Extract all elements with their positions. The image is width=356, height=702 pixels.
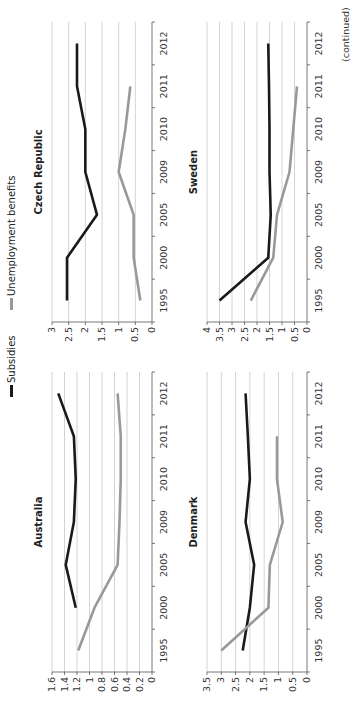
- chart-svg: Sweden00.511.522.533.5419952000200520092…: [185, 2, 335, 352]
- x-tick-label: 2009: [158, 510, 169, 534]
- chart-svg: Czech Republic00.511.522.531995200020052…: [30, 2, 180, 352]
- continued-note: (continued): [340, 7, 351, 62]
- legend-label-unemployment: Unemployment benefits: [6, 176, 17, 296]
- x-tick-label: 2012: [313, 31, 324, 55]
- unemployment-swatch-icon: [10, 298, 13, 310]
- y-tick-label: 2.5: [63, 327, 74, 342]
- y-tick-label: 3.5: [201, 677, 212, 692]
- y-tick-label: 1: [84, 677, 95, 683]
- legend: Subsidies Unemployment benefits: [4, 0, 24, 702]
- y-tick-label: 0: [301, 677, 312, 683]
- y-tick-label: 0: [301, 327, 312, 333]
- legend-label-subsidies: Subsidies: [6, 335, 17, 383]
- x-tick-label: 2000: [313, 596, 324, 620]
- y-tick-label: 0: [146, 677, 157, 683]
- y-tick-label: 3: [46, 327, 57, 333]
- x-tick-label: 2005: [313, 553, 324, 577]
- x-tick-label: 2009: [313, 160, 324, 184]
- x-tick-label: 2010: [313, 467, 324, 491]
- y-tick-label: 1: [276, 327, 287, 333]
- y-tick-label: 2: [251, 327, 262, 333]
- y-tick-label: 1: [272, 677, 283, 683]
- y-tick-label: 1.6: [46, 677, 57, 692]
- y-tick-label: 1.2: [71, 677, 82, 692]
- unemployment-line: [119, 86, 141, 300]
- y-tick-label: 3: [226, 327, 237, 333]
- x-tick-label: 2009: [313, 510, 324, 534]
- y-tick-label: 0.6: [109, 677, 120, 692]
- y-tick-label: 0.8: [96, 677, 107, 692]
- chart-svg: Denmark00.511.522.533.519952000200520092…: [185, 352, 335, 702]
- x-tick-label: 2010: [313, 117, 324, 141]
- x-tick-label: 2005: [313, 203, 324, 227]
- chart-title: Sweden: [188, 150, 199, 194]
- x-tick-label: 2000: [313, 246, 324, 270]
- x-tick-label: 2012: [313, 381, 324, 405]
- y-tick-label: 2: [244, 677, 255, 683]
- chart-czech-republic: Czech Republic00.511.522.531995200020052…: [30, 2, 180, 352]
- y-tick-label: 1.5: [96, 327, 107, 342]
- x-tick-label: 1995: [313, 638, 324, 662]
- chart-australia: Australia00.20.40.60.811.21.41.619952000…: [30, 352, 180, 702]
- y-tick-label: 2: [79, 327, 90, 333]
- rotated-page: Subsidies Unemployment benefits Australi…: [0, 0, 356, 702]
- y-tick-label: 1.5: [258, 677, 269, 692]
- legend-item-unemployment: Unemployment benefits: [6, 176, 17, 310]
- y-tick-label: 3: [215, 677, 226, 683]
- chart-title: Czech Republic: [33, 129, 44, 214]
- subsidies-swatch-icon: [10, 385, 13, 397]
- x-tick-label: 2011: [313, 74, 324, 98]
- y-tick-label: 0.5: [287, 677, 298, 692]
- y-tick-label: 4: [201, 327, 212, 333]
- y-tick-label: 0.2: [134, 677, 145, 692]
- subsidies-line: [58, 393, 76, 607]
- x-tick-label: 2000: [158, 596, 169, 620]
- subsidies-line: [243, 393, 254, 650]
- chart-denmark: Denmark00.511.522.533.519952000200520092…: [185, 352, 335, 702]
- y-tick-label: 0.5: [129, 327, 140, 342]
- x-tick-label: 2012: [158, 31, 169, 55]
- x-tick-label: 2012: [158, 381, 169, 405]
- chart-title: Denmark: [188, 496, 199, 547]
- chart-svg: Australia00.20.40.60.811.21.41.619952000…: [30, 352, 180, 702]
- subsidies-line: [220, 43, 271, 300]
- y-tick-label: 1.5: [264, 327, 275, 342]
- unemployment-line: [221, 436, 282, 650]
- y-tick-label: 1: [113, 327, 124, 333]
- y-tick-label: 0.4: [121, 677, 132, 692]
- chart-sweden: Sweden00.511.522.533.5419952000200520092…: [185, 2, 335, 352]
- legend-item-subsidies: Subsidies: [6, 335, 17, 397]
- x-tick-label: 2011: [158, 74, 169, 98]
- x-tick-label: 2011: [158, 424, 169, 448]
- x-tick-label: 2010: [158, 467, 169, 491]
- x-tick-label: 2005: [158, 553, 169, 577]
- x-tick-label: 2010: [158, 117, 169, 141]
- y-tick-label: 0.5: [289, 327, 300, 342]
- x-tick-label: 2000: [158, 246, 169, 270]
- subsidies-line: [67, 43, 97, 300]
- x-tick-label: 2009: [158, 160, 169, 184]
- x-tick-label: 1995: [158, 288, 169, 312]
- y-tick-label: 3.5: [214, 327, 225, 342]
- x-tick-label: 2011: [313, 424, 324, 448]
- y-tick-label: 1.4: [59, 677, 70, 692]
- y-tick-label: 0: [146, 327, 157, 333]
- chart-title: Australia: [33, 497, 44, 548]
- x-tick-label: 1995: [313, 288, 324, 312]
- x-tick-label: 2005: [158, 203, 169, 227]
- x-tick-label: 1995: [158, 638, 169, 662]
- y-tick-label: 2.5: [239, 327, 250, 342]
- y-tick-label: 2.5: [230, 677, 241, 692]
